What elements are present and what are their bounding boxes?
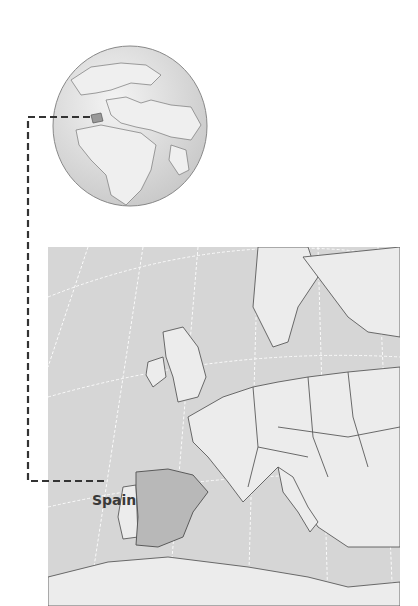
- locator-globe: [51, 45, 209, 208]
- spain-label: Spain: [92, 492, 136, 508]
- europe-map: [48, 247, 400, 606]
- globe-spain-highlight: [91, 113, 103, 123]
